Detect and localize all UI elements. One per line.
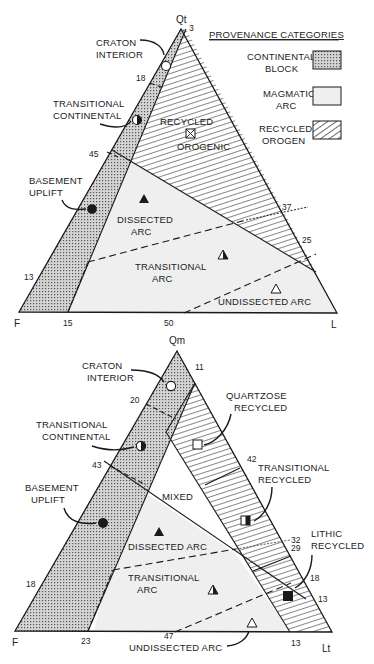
label-basement-uplift-1: BASEMENT (25, 482, 79, 493)
label-recycled: RECYCLED (160, 116, 213, 127)
vertex-qt: Qt (176, 14, 187, 25)
provenance-diagrams: Qt F L 3 18 45 13 37 25 15 50 CRATON INT… (0, 0, 374, 664)
vertex-l: L (331, 319, 337, 330)
label-dissected-arc: ARC (131, 226, 152, 237)
label-transitional-arc: ARC (137, 584, 158, 595)
label-basement-uplift-1: BASEMENT (29, 175, 83, 186)
qmflt-diagram: Qm F Lt 11 20 43 18 42 32 29 18 13 23 47… (12, 335, 364, 654)
label-dissected: DISSECTED (117, 214, 173, 225)
label-lithic-recycled-1: LITHIC (311, 528, 342, 539)
label-orogenic: OROGENIC (177, 141, 230, 152)
label-transitional: TRANSITIONAL (135, 261, 207, 272)
filled-circle-icon (87, 204, 97, 214)
tick-45: 45 (89, 149, 99, 159)
legend-swatch-magmatic (313, 87, 341, 105)
tick-18-right: 18 (310, 573, 320, 583)
filled-circle-icon (98, 518, 108, 528)
label-transitional-continental-2: CONTINENTAL (42, 431, 111, 442)
label-undissected-arc: UNDISSECTED ARC (129, 642, 222, 653)
label-transitional-continental-1: TRANSITIONAL (53, 98, 125, 109)
vertex-f: F (12, 637, 18, 648)
open-circle-icon (162, 62, 171, 71)
vertex-f: F (14, 318, 20, 329)
svg-text:OROGEN: OROGEN (262, 135, 305, 146)
filled-square-icon (283, 591, 293, 601)
tick-47: 47 (164, 631, 174, 641)
tick-3: 3 (189, 23, 194, 33)
legend-swatch-recycled (313, 121, 341, 139)
label-craton-interior-2: INTERIOR (87, 372, 134, 383)
label-mixed: MIXED (162, 491, 193, 502)
tick-13-bottom: 13 (291, 638, 301, 648)
label-transitional-recycled-1: TRANSITIONAL (258, 462, 330, 473)
label-basement-uplift-2: UPLIFT (31, 494, 65, 505)
label-quartzose-recycled-1: QUARTZOSE (226, 390, 287, 401)
tick-13-right: 13 (318, 594, 328, 604)
label-craton-interior-1: CRATON (82, 360, 122, 371)
vertex-qm: Qm (169, 335, 185, 346)
label-craton-interior-1: CRATON (96, 37, 136, 48)
tick-15: 15 (63, 318, 73, 328)
label-dissected-arc: DISSECTED ARC (128, 541, 207, 552)
legend-title: PROVENANCE CATEGORIES (209, 29, 344, 40)
open-circle-icon (166, 381, 175, 390)
tick-11: 11 (195, 362, 204, 372)
tick-29: 29 (291, 543, 301, 553)
tick-37: 37 (282, 202, 292, 212)
tick-25: 25 (302, 235, 312, 245)
label-transitional-continental-1: TRANSITIONAL (36, 419, 108, 430)
open-square-icon (193, 440, 202, 449)
tick-18: 18 (136, 73, 146, 83)
legend-swatch-continental (313, 51, 341, 69)
label-transitional: TRANSITIONAL (128, 572, 200, 583)
label-transitional-recycled-2: RECYCLED (258, 474, 311, 485)
svg-text:ARC: ARC (276, 100, 297, 111)
tick-13: 13 (24, 272, 34, 282)
tick-50: 50 (164, 318, 174, 328)
tick-18-left: 18 (26, 579, 36, 589)
vertex-lt: Lt (322, 643, 331, 654)
tick-43: 43 (92, 460, 102, 470)
label-quartzose-recycled-2: RECYCLED (234, 402, 287, 413)
svg-text:RECYCLED: RECYCLED (259, 123, 312, 134)
tick-23: 23 (81, 636, 91, 646)
tick-42: 42 (247, 454, 257, 464)
label-basement-uplift-2: UPLIFT (29, 187, 63, 198)
svg-text:BLOCK: BLOCK (265, 63, 299, 74)
label-lithic-recycled-2: RECYCLED (311, 540, 364, 551)
label-transitional-continental-2: CONTINENTAL (53, 110, 122, 121)
label-undissected-arc: UNDISSECTED ARC (218, 296, 311, 307)
svg-text:MAGMATIC: MAGMATIC (263, 88, 315, 99)
label-craton-interior-2: INTERIOR (96, 49, 143, 60)
label-transitional-arc: ARC (152, 273, 173, 284)
tick-20: 20 (130, 395, 140, 405)
svg-text:CONTINENTAL: CONTINENTAL (247, 51, 316, 62)
